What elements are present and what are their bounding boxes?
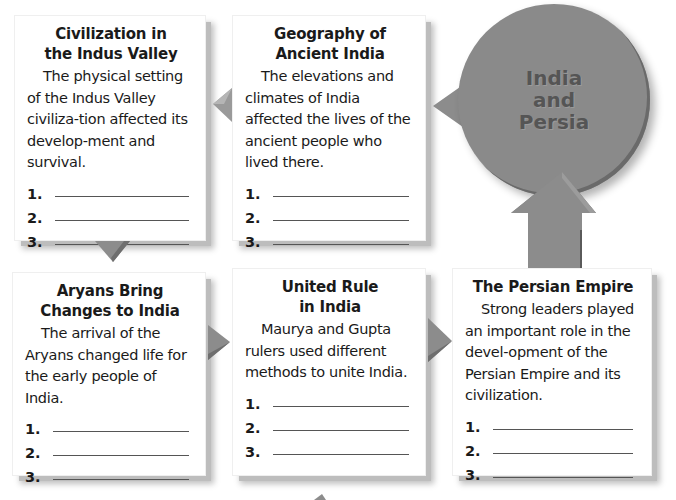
card-body: The arrival of the Aryans changed life f… [25, 323, 195, 409]
arrow-right-icon [428, 318, 452, 362]
answer-blank[interactable] [273, 406, 409, 407]
item-number: 2. [245, 420, 267, 436]
card-title: United Rule in India [245, 277, 415, 317]
card-body: The elevations and climates of India aff… [245, 66, 415, 174]
answer-line[interactable]: 1. [465, 411, 641, 435]
card-title: Aryans Bring Changes to India [25, 281, 195, 321]
item-number: 1. [245, 186, 267, 202]
answer-line[interactable]: 2. [245, 202, 415, 226]
answer-list: 1. 2. 3. [25, 413, 195, 485]
answer-list: 1. 2. 3. [27, 178, 195, 250]
title-line: Aryans Bring [25, 281, 195, 301]
answer-list: 1. 2. 3. [465, 411, 641, 483]
card-title: The Persian Empire [465, 277, 641, 297]
answer-line[interactable]: 3. [245, 436, 415, 460]
answer-blank[interactable] [493, 477, 633, 478]
center-title-line: and [533, 89, 575, 111]
card-title: Civilization in the Indus Valley [27, 24, 195, 64]
title-line: Geography of [245, 24, 415, 44]
answer-blank[interactable] [273, 454, 409, 455]
answer-line[interactable]: 2. [25, 437, 195, 461]
answer-blank[interactable] [273, 244, 409, 245]
center-topic-circle: India and Persia [458, 4, 650, 196]
arrow-left-icon [213, 88, 232, 122]
answer-blank[interactable] [53, 455, 189, 456]
answer-list: 1. 2. 3. [245, 388, 415, 460]
answer-blank[interactable] [53, 479, 189, 480]
card-geography: Geography of Ancient India The elevation… [232, 15, 426, 241]
answer-blank[interactable] [273, 220, 409, 221]
answer-blank[interactable] [493, 429, 633, 430]
answer-blank[interactable] [53, 431, 189, 432]
answer-blank[interactable] [493, 453, 633, 454]
card-aryans: Aryans Bring Changes to India The arriva… [12, 272, 206, 476]
center-title-line: Persia [519, 111, 589, 133]
item-number: 3. [465, 467, 487, 483]
answer-line[interactable]: 2. [245, 412, 415, 436]
arrow-fragment-icon [314, 494, 326, 500]
answer-line[interactable]: 1. [27, 178, 195, 202]
arrow-right-icon [208, 325, 230, 360]
title-line: Changes to India [25, 301, 195, 321]
answer-blank[interactable] [55, 244, 189, 245]
item-number: 2. [25, 445, 47, 461]
card-indus-valley: Civilization in the Indus Valley The phy… [14, 15, 206, 241]
item-number: 2. [465, 443, 487, 459]
answer-line[interactable]: 1. [245, 178, 415, 202]
title-line: United Rule [245, 277, 415, 297]
title-line: Civilization in [27, 24, 195, 44]
card-body: The physical setting of the Indus Valley… [27, 66, 195, 174]
answer-blank[interactable] [55, 220, 189, 221]
item-number: 2. [27, 210, 49, 226]
answer-blank[interactable] [273, 430, 409, 431]
answer-line[interactable]: 1. [245, 388, 415, 412]
item-number: 1. [465, 419, 487, 435]
item-number: 2. [245, 210, 267, 226]
answer-line[interactable]: 3. [25, 461, 195, 485]
answer-blank[interactable] [55, 196, 189, 197]
answer-line[interactable]: 2. [27, 202, 195, 226]
center-title-line: India [526, 67, 582, 89]
title-line: The Persian Empire [465, 277, 641, 297]
answer-line[interactable]: 3. [27, 226, 195, 250]
title-line: the Indus Valley [27, 44, 195, 64]
card-persian-empire: The Persian Empire Strong leaders played… [452, 268, 652, 476]
answer-blank[interactable] [273, 196, 409, 197]
card-body: Strong leaders played an important role … [465, 299, 641, 407]
answer-list: 1. 2. 3. [245, 178, 415, 250]
answer-line[interactable]: 3. [245, 226, 415, 250]
answer-line[interactable]: 2. [465, 435, 641, 459]
card-title: Geography of Ancient India [245, 24, 415, 64]
card-united-rule: United Rule in India Maurya and Gupta ru… [232, 268, 426, 476]
item-number: 1. [245, 396, 267, 412]
card-body: Maurya and Gupta rulers used different m… [245, 319, 415, 384]
item-number: 3. [245, 444, 267, 460]
answer-line[interactable]: 3. [465, 459, 641, 483]
item-number: 1. [25, 421, 47, 437]
title-line: Ancient India [245, 44, 415, 64]
item-number: 3. [25, 469, 47, 485]
item-number: 1. [27, 186, 49, 202]
title-line: in India [245, 297, 415, 317]
item-number: 3. [27, 234, 49, 250]
item-number: 3. [245, 234, 267, 250]
answer-line[interactable]: 1. [25, 413, 195, 437]
